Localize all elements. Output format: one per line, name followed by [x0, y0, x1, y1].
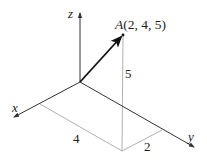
point-a-coords: (2, 4, 5): [123, 17, 166, 32]
x-axis-label: x: [11, 100, 18, 115]
guide-vertical-height: [122, 36, 123, 151]
x-component-label: 4: [73, 131, 80, 146]
y-axis: [80, 82, 194, 147]
guide-x-to-foot: [40, 104, 122, 151]
y-axis-label: y: [186, 129, 194, 144]
point-a-dot: [122, 34, 125, 37]
position-vector-arrow: [80, 37, 121, 82]
coordinate-diagram: z x y A(2, 4, 5) 5 4 2: [0, 0, 207, 161]
z-axis-label: z: [67, 6, 73, 21]
y-component-label: 2: [144, 139, 151, 154]
axes: [14, 13, 194, 147]
guide-y-to-foot: [122, 130, 162, 151]
point-a-label: A(2, 4, 5): [114, 17, 166, 32]
z-component-label: 5: [125, 66, 132, 81]
x-axis: [14, 82, 80, 117]
